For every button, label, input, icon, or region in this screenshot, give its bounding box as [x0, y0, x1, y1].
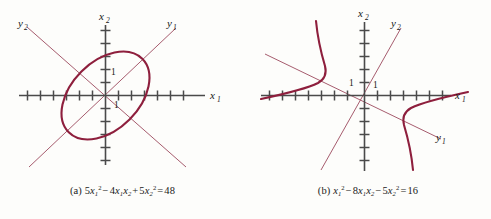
x-axis-label-a: x 1: [209, 89, 221, 104]
y-axis-label-b: x 2: [357, 7, 369, 22]
eq-b-rhs: 16: [407, 185, 418, 196]
x-axis-label-text: x: [454, 89, 460, 101]
eq-b-term3-pow: 2: [396, 184, 399, 191]
figure-a-equation: 5x12−4x1x2+5x22=48: [85, 185, 175, 196]
eq-a-term1-pow: 2: [98, 184, 101, 191]
hyperbola-branch-upper-left: [261, 21, 326, 99]
eq-b-term1-pow: 2: [341, 184, 344, 191]
x-axis-label-b: x 1: [454, 89, 466, 104]
rotated-axis-y1-line: [29, 28, 176, 167]
y-axis-label-subscript: 2: [365, 13, 369, 22]
figure-a-caption-label: (a): [70, 185, 82, 196]
eq-b-term3-sub: 2: [393, 190, 396, 197]
eq-a-term3-sub: 2: [149, 190, 152, 197]
rotated-axis-y1-label-subscript: 1: [173, 23, 177, 32]
figure-a-caption: (a) 5x12−4x1x2+5x22=48: [0, 185, 245, 196]
figure-b-equation: x12−8x1x2−5x22=16: [333, 185, 418, 196]
x-axis-label-subscript: 1: [217, 95, 221, 104]
unit-label-x-b: 1: [373, 80, 378, 90]
eq-b-term2-sub-b: 2: [371, 190, 374, 197]
rotated-axis-y1-label-a: y 1: [166, 17, 177, 32]
unit-label-y-a: 1: [111, 67, 116, 77]
rotated-axis-y1-label-text: y: [166, 17, 172, 29]
eq-a-term3-pow: 2: [153, 184, 156, 191]
rotated-axis-y1-label-b: y 1: [435, 131, 446, 146]
figure-a: 1 1 x 1 x 2 y 1 y 2 (a) 5x1: [0, 0, 245, 219]
rotated-axis-y2-label-subscript: 2: [24, 23, 28, 32]
figure-b-caption: (b) x12−8x1x2−5x22=16: [245, 185, 491, 196]
rotated-axis-y1-line: [265, 54, 441, 139]
y-axis-label-a: x 2: [98, 10, 110, 25]
eq-b-term3-var: x: [388, 185, 393, 196]
rotated-axis-y1-label-subscript: 1: [442, 137, 446, 146]
x-axis-label-text: x: [209, 89, 215, 101]
eq-a-term2-sub-b: 2: [128, 190, 131, 197]
eq-a-rhs: 48: [164, 185, 175, 196]
eq-b-term2-sub-a: 1: [363, 190, 366, 197]
rotated-axis-y2-label-a: y 2: [17, 17, 28, 32]
rotated-axis-y2-label-text: y: [390, 17, 396, 29]
eq-b-op1: −: [345, 185, 353, 196]
y-axis-label-text: x: [98, 10, 104, 22]
x-axis-label-subscript: 1: [462, 95, 466, 104]
figure-b: 1 1 x 1 x 2 y 2 y 1 (b) x12: [245, 0, 491, 219]
rotated-axis-y1-label-text: y: [435, 131, 441, 143]
y-axis-label-text: x: [357, 7, 363, 19]
figure-panel: 1 1 x 1 x 2 y 1 y 2 (a) 5x1: [0, 0, 491, 219]
rotated-axis-y2-line: [321, 28, 401, 170]
rotated-axis-y2-label-b: y 2: [390, 17, 401, 32]
y-axis-label-subscript: 2: [106, 16, 110, 25]
eq-b-term1-sub: 1: [338, 190, 341, 197]
eq-a-op1: −: [102, 185, 110, 196]
figure-b-caption-label: (b): [318, 185, 331, 196]
eq-a-term2-sub-a: 1: [120, 190, 123, 197]
eq-a-term1-sub: 1: [95, 190, 98, 197]
rotated-axis-y2-label-text: y: [17, 17, 23, 29]
unit-label-y-b: 1: [349, 78, 354, 88]
rotated-axis-y2-label-subscript: 2: [397, 23, 401, 32]
unit-label-x-a: 1: [114, 100, 119, 110]
